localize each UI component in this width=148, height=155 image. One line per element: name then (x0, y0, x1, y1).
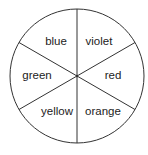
sector-label-violet: violet (86, 35, 114, 47)
sector-label-green: green (22, 69, 51, 81)
center-pivot (76, 75, 78, 77)
spinner-diagram: blue violet red orange yellow green (0, 0, 148, 155)
sector-label-blue: blue (45, 35, 67, 47)
sector-label-red: red (105, 69, 122, 81)
sector-label-yellow: yellow (41, 105, 74, 117)
sector-label-orange: orange (85, 105, 121, 117)
